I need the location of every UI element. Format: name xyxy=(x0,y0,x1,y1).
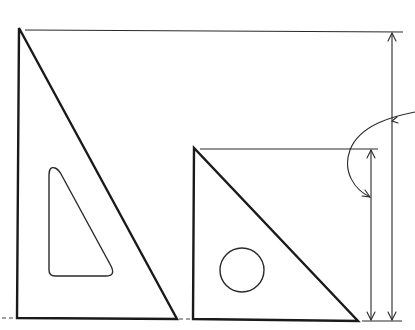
set-squares-diagram xyxy=(0,0,415,330)
background xyxy=(0,0,415,330)
